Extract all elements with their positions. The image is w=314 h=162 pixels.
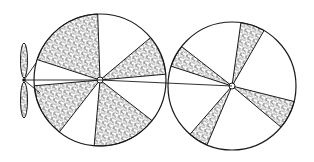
propeller-disk-diagram xyxy=(0,0,314,162)
shaded-wedge xyxy=(232,86,294,127)
diagram-canvas xyxy=(0,0,314,162)
propeller-blade-top xyxy=(21,43,28,78)
shaded-wedge xyxy=(34,80,100,132)
shaded-wedge xyxy=(232,23,264,86)
shaded-wedge xyxy=(94,80,152,146)
propeller-hub xyxy=(22,78,26,82)
disk-group xyxy=(34,14,296,150)
propeller-blade-bottom xyxy=(21,82,28,118)
shaded-wedge xyxy=(171,47,232,86)
shaded-wedge xyxy=(37,14,100,80)
shaded-wedge xyxy=(190,86,232,145)
